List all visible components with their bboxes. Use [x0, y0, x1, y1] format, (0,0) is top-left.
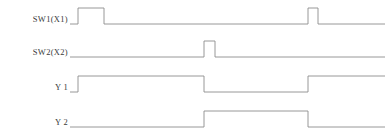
- signal-label-sw2: SW2(X2): [0, 47, 68, 57]
- waveform-path-y1: [70, 76, 385, 92]
- waveform-path-sw1: [70, 8, 385, 24]
- waveform-path-sw2: [70, 41, 385, 57]
- signal-row-sw2: SW2(X2): [0, 35, 385, 70]
- signal-label-y2: Y 2: [0, 117, 68, 127]
- signal-label-y1: Y 1: [0, 82, 68, 92]
- waveform-y1: [70, 70, 385, 105]
- signal-row-y2: Y 2: [0, 105, 385, 140]
- waveform-path-y2: [70, 111, 385, 127]
- waveform-sw2: [70, 35, 385, 70]
- waveform-sw1: [70, 2, 385, 37]
- signal-row-y1: Y 1: [0, 70, 385, 105]
- signal-label-sw1: SW1(X1): [0, 14, 68, 24]
- signal-row-sw1: SW1(X1): [0, 2, 385, 37]
- timing-diagram: SW1(X1) SW2(X2) Y 1 Y 2: [0, 0, 385, 140]
- waveform-y2: [70, 105, 385, 140]
